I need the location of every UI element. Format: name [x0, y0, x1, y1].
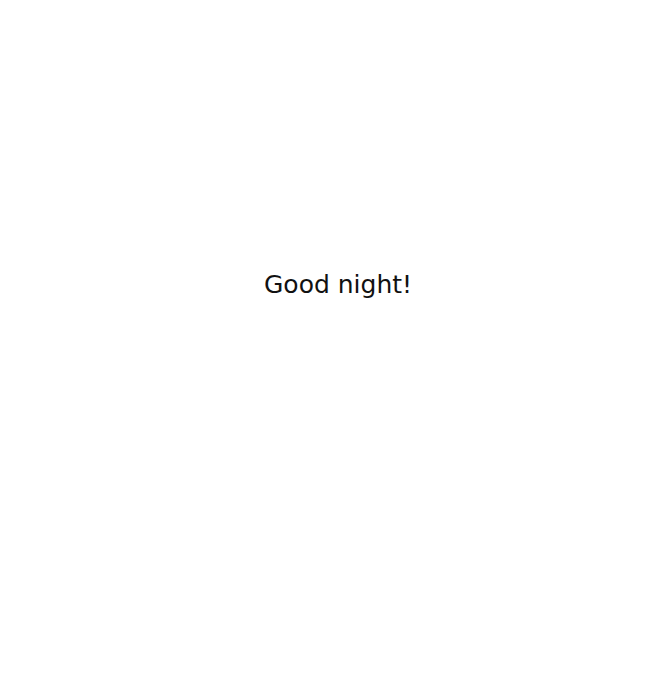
blank-page: Good night! [0, 0, 654, 680]
good-night-message: Good night! [264, 266, 412, 304]
